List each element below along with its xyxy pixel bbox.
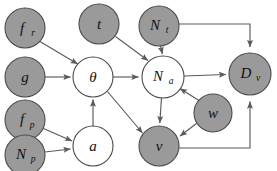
node-f-p[interactable]: f p (5, 100, 45, 140)
edge-Nt-to-Dv (179, 24, 250, 47)
node-theta-circle[interactable] (73, 57, 113, 97)
node-w-circle[interactable] (194, 94, 232, 132)
edge-Na-to-v (160, 98, 162, 123)
node-g[interactable]: g (5, 57, 45, 97)
node-v-circle[interactable] (139, 126, 179, 166)
node-theta[interactable]: θ (73, 57, 113, 97)
node-N-t[interactable]: N t (139, 6, 179, 46)
edge-theta-to-v (108, 92, 143, 134)
node-layer: f r g f p N p t (5, 4, 271, 171)
node-a-circle[interactable] (73, 126, 113, 166)
node-N-p-circle[interactable] (5, 135, 45, 171)
edge-t-to-Na (116, 37, 149, 61)
node-v[interactable]: v (139, 126, 179, 166)
node-D-v[interactable]: D v (229, 53, 271, 95)
edge-w-to-Na (180, 89, 201, 102)
node-g-circle[interactable] (5, 57, 45, 97)
node-w[interactable]: w (194, 94, 232, 132)
edge-fr-to-theta (40, 42, 78, 65)
node-a[interactable]: a (73, 126, 113, 166)
node-f-p-circle[interactable] (5, 100, 45, 140)
node-N-a[interactable]: N a (142, 56, 184, 98)
node-f-r-circle[interactable] (5, 8, 45, 48)
node-t-circle[interactable] (79, 4, 119, 44)
node-D-v-circle[interactable] (229, 53, 271, 95)
node-f-r[interactable]: f r (5, 8, 45, 48)
node-N-p[interactable]: N p (5, 135, 45, 171)
node-N-t-circle[interactable] (139, 6, 179, 46)
edge-Np-to-a (45, 149, 71, 152)
node-N-a-circle[interactable] (142, 56, 184, 98)
graph-canvas: f r g f p N p t (0, 0, 277, 171)
edge-w-to-v (180, 124, 197, 137)
node-t[interactable]: t (79, 4, 119, 44)
edge-Na-to-Dv (184, 75, 226, 77)
bayesian-network-diagram: f r g f p N p t (0, 0, 277, 171)
edge-Nt-to-Na (161, 46, 163, 54)
edge-fp-to-a (44, 129, 73, 142)
